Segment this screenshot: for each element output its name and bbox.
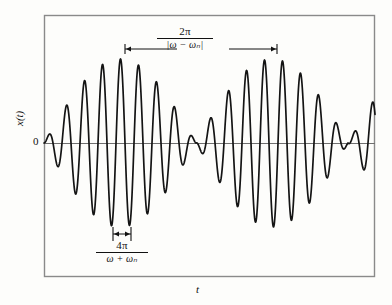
beat-period-label: 2π |ω − ωₙ| [155, 26, 215, 50]
carrier-period-label: 4π ω + ωₙ [92, 240, 152, 264]
beat-period-denominator: |ω − ωₙ| [155, 39, 215, 50]
carrier-period-denominator: ω + ωₙ [92, 253, 152, 264]
y-axis-label: x(t) [14, 111, 25, 126]
beat-period-numerator: 2π [155, 26, 215, 38]
carrier-period-numerator: 4π [92, 240, 152, 252]
x-axis-label: t [196, 284, 199, 295]
zero-tick-label: 0 [33, 136, 39, 147]
plot-frame [45, 16, 375, 277]
